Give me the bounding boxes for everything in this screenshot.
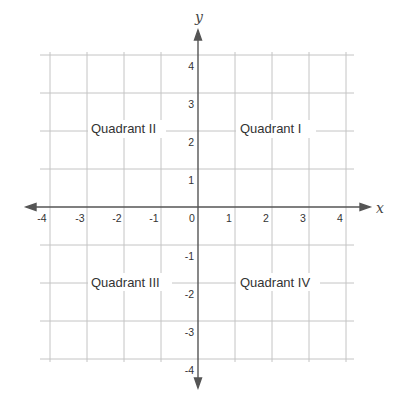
y-axis-label: y xyxy=(194,9,204,25)
quadrant-i-label: Quadrant I xyxy=(240,121,301,136)
y-tick-label: 2 xyxy=(188,136,194,148)
coordinate-plane: x y -4 -3 -2 -1 0 1 2 3 4 4 3 2 1 -1 -2 … xyxy=(0,0,406,401)
x-tick-label: -4 xyxy=(37,212,46,224)
quadrant-ii-label: Quadrant II xyxy=(91,121,156,136)
quadrant-iii-label: Quadrant III xyxy=(91,275,160,290)
y-tick-label: 4 xyxy=(188,60,194,72)
x-tick-label: 0 xyxy=(189,212,195,224)
y-tick-label: 3 xyxy=(188,98,194,110)
x-tick-label: 1 xyxy=(226,212,232,224)
y-tick-label: -3 xyxy=(185,326,194,338)
x-tick-label: 4 xyxy=(337,212,343,224)
y-axis-down-arrow-icon xyxy=(195,378,202,388)
x-tick-label: -2 xyxy=(112,212,121,224)
y-tick-label: -4 xyxy=(185,364,194,376)
y-axis xyxy=(195,30,202,388)
y-axis-up-arrow-icon xyxy=(195,30,202,40)
x-tick-label: -1 xyxy=(149,212,158,224)
x-axis-right-arrow-icon xyxy=(360,204,370,211)
x-axis-left-arrow-icon xyxy=(26,204,36,211)
x-axis-label: x xyxy=(376,200,384,216)
y-tick-label: 1 xyxy=(188,174,194,186)
x-tick-label: -3 xyxy=(75,212,84,224)
x-tick-label: 2 xyxy=(263,212,269,224)
x-tick-label: 3 xyxy=(300,212,306,224)
quadrant-iv-label: Quadrant IV xyxy=(240,275,310,290)
y-tick-label: -1 xyxy=(185,250,194,262)
x-tick-labels: -4 -3 -2 -1 0 1 2 3 4 xyxy=(37,212,343,224)
y-tick-label: -2 xyxy=(185,288,194,300)
